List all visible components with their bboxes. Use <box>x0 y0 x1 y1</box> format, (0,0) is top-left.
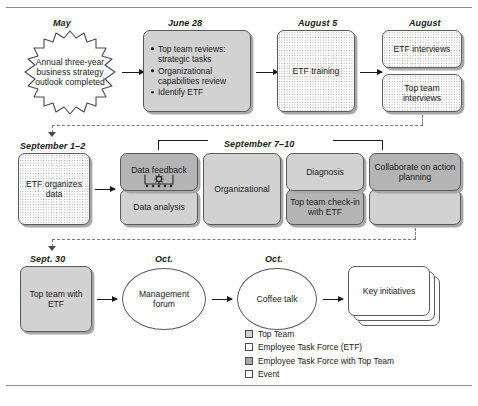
node-management-forum: Management forum <box>122 268 206 330</box>
legend-swatch-etf <box>245 343 253 351</box>
meeting-gear-icon <box>141 173 177 188</box>
node-data-analysis-label: Data analysis <box>121 202 197 212</box>
dashed-connector-row2-across <box>52 239 416 240</box>
node-top-team-with-etf: Top team with ETF <box>20 266 92 332</box>
process-timeline-diagram: May Annual three-year business strategy … <box>0 0 478 406</box>
bracket-right-stem <box>382 140 383 150</box>
node-diagnosis-label: Diagnosis <box>287 167 363 177</box>
dashed-connector-august-across <box>52 125 423 126</box>
dashed-connector-august-down <box>422 115 423 125</box>
legend-swatch-etf-with-top-team <box>245 357 253 365</box>
node-collaborate-lower <box>369 189 461 225</box>
legend-swatch-event <box>245 370 253 378</box>
caption-may: May <box>53 18 71 29</box>
legend-item-top-team: Top Team <box>245 329 394 339</box>
node-annual-outlook: Annual three-year business strategy outl… <box>22 30 118 115</box>
arrow-coffee-to-initiatives <box>323 299 343 300</box>
node-etf-organizes-data: ETF organizes data <box>18 153 90 225</box>
legend-label-etf-with-top-team: Employee Task Force with Top Team <box>258 356 394 366</box>
caption-august5: August 5 <box>298 18 337 29</box>
list-item: Identify ETF <box>151 87 245 97</box>
node-diagnosis: Diagnosis <box>286 153 364 191</box>
caption-sept30: Sept. 30 <box>30 254 65 265</box>
bracket-left-top <box>158 140 208 141</box>
node-june-tasks-list: Top team reviews: strategic tasks Organi… <box>144 44 250 97</box>
legend: Top Team Employee Task Force (ETF) Emplo… <box>245 329 394 383</box>
arrow-sept12-to-sept710 <box>95 189 115 190</box>
legend-label-event: Event <box>258 369 279 379</box>
bracket-right-top <box>333 140 383 141</box>
node-top-team-with-etf-label: Top team with ETF <box>21 289 91 310</box>
node-top-team-checkin-label: Top team check-in with ETF <box>287 197 363 218</box>
arrow-may-to-june <box>122 72 144 73</box>
caption-oct1: Oct. <box>155 254 173 265</box>
node-collaborate-action-planning: Collaborate on action planning <box>369 153 461 191</box>
dashed-arrowhead-sept12 <box>48 132 56 137</box>
caption-september710: September 7–10 <box>224 139 294 150</box>
legend-label-etf: Employee Task Force (ETF) <box>258 342 362 352</box>
node-collaborate-action-planning-label: Collaborate on action planning <box>370 162 460 183</box>
dashed-arrowhead-sept30 <box>48 246 56 251</box>
node-annual-outlook-label: Annual three-year business strategy outl… <box>22 57 118 88</box>
caption-august: August <box>409 18 441 29</box>
node-data-feedback: Data feedback <box>120 153 198 191</box>
key-initiatives-card-front: Key initiatives <box>348 266 430 316</box>
node-key-initiatives: Key initiatives <box>348 266 444 328</box>
node-coffee-talk-label: Coffee talk <box>238 294 316 304</box>
node-management-forum-label: Management forum <box>123 289 205 310</box>
top-rule <box>6 7 472 8</box>
legend-item-etf-with-top-team: Employee Task Force with Top Team <box>245 356 394 366</box>
legend-swatch-top-team <box>245 330 253 338</box>
node-top-team-interviews: Top team interviews <box>382 74 462 112</box>
bottom-rule <box>6 385 472 386</box>
caption-september12: September 1–2 <box>20 141 85 152</box>
dashed-connector-row2-down <box>415 228 416 239</box>
arrow-june-to-august5 <box>256 72 278 73</box>
node-top-team-checkin: Top team check-in with ETF <box>286 189 364 225</box>
node-etf-interviews: ETF interviews <box>382 30 462 68</box>
node-etf-training-label: ETF training <box>278 66 354 76</box>
node-etf-organizes-data-label: ETF organizes data <box>19 179 89 200</box>
caption-june28: June 28 <box>168 18 202 29</box>
node-data-analysis: Data analysis <box>120 189 198 225</box>
legend-label-top-team: Top Team <box>258 329 294 339</box>
arrow-forum-to-coffee <box>212 299 232 300</box>
node-organizational: Organizational <box>203 153 281 225</box>
node-june-tasks: Top team reviews: strategic tasks Organi… <box>143 30 251 112</box>
node-coffee-talk: Coffee talk <box>237 268 317 330</box>
arrow-sept30-to-forum <box>97 299 117 300</box>
caption-oct2: Oct. <box>265 254 283 265</box>
node-etf-interviews-label: ETF interviews <box>383 44 461 54</box>
bracket-left-stem <box>158 140 159 150</box>
legend-item-event: Event <box>245 369 394 379</box>
list-item: Organizational capabilities review <box>151 66 245 86</box>
node-etf-training: ETF training <box>277 30 355 112</box>
legend-item-etf: Employee Task Force (ETF) <box>245 342 394 352</box>
node-organizational-label: Organizational <box>204 184 280 194</box>
list-item: Top team reviews: strategic tasks <box>151 44 245 64</box>
arrow-august5-to-august <box>360 72 382 73</box>
node-key-initiatives-label: Key initiatives <box>349 286 429 296</box>
node-top-team-interviews-label: Top team interviews <box>383 83 461 104</box>
